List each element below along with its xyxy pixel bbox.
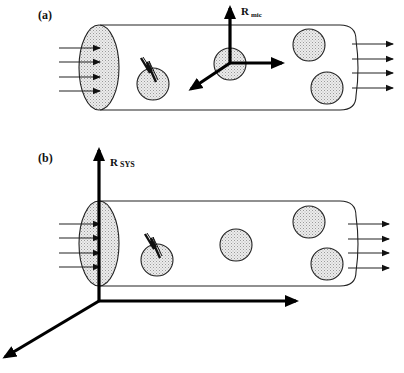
- outflow-arrows-b: [348, 224, 389, 268]
- axis-depth-arrow: [5, 301, 99, 357]
- particle: [311, 72, 343, 104]
- particle: [293, 206, 325, 238]
- panel-b: (b): [5, 150, 389, 357]
- frame-label-mic: Rmic: [241, 5, 262, 19]
- panel-a: (a): [38, 5, 393, 110]
- panel-a-label: (a): [38, 8, 52, 22]
- particles-b: [141, 206, 343, 280]
- frame-label-main: R: [110, 156, 119, 168]
- particle: [220, 229, 252, 261]
- frame-label-sys: RSYS: [110, 156, 135, 169]
- diagram-canvas: (a): [0, 0, 404, 373]
- particle: [311, 248, 343, 280]
- frame-label-subscript: mic: [251, 11, 262, 19]
- frame-label-main: R: [241, 5, 250, 17]
- particles-a: [137, 29, 343, 104]
- tube-inlet-cross-section: [79, 25, 119, 110]
- particle: [293, 29, 325, 61]
- frame-label-subscript: SYS: [120, 160, 135, 169]
- panel-b-label: (b): [38, 151, 53, 165]
